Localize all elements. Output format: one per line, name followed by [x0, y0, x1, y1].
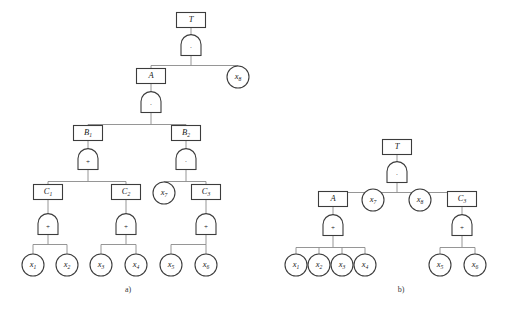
b-gate-C3-gate-symbol: +: [460, 224, 464, 232]
a-evt-x4-basic-event[interactable]: x4: [125, 254, 147, 276]
tree-nodes: ··+·+++TAB1B2C1C2C3x8x7x1x2x3x4x5x6·++TA…: [22, 13, 486, 277]
a-evt-x3-basic-event[interactable]: x3: [90, 254, 112, 276]
a-evt-x2-basic-event[interactable]: x2: [56, 254, 78, 276]
a-box-T-node-box[interactable]: T: [177, 13, 206, 28]
b-gate-T-and-gate[interactable]: ·: [387, 162, 407, 183]
fault-tree-canvas: ··+·+++TAB1B2C1C2C3x8x7x1x2x3x4x5x6·++TA…: [0, 0, 508, 313]
a-box-B2-node-box[interactable]: B2: [172, 126, 201, 141]
a-box-C3-node-box[interactable]: C3: [192, 185, 221, 200]
caption-a: a): [125, 285, 132, 294]
a-gate-C2-gate-symbol: +: [124, 223, 128, 231]
b-evt-x3-basic-event[interactable]: x3: [331, 254, 353, 276]
b-evt-x4-basic-event[interactable]: x4: [354, 254, 376, 276]
a-gate-A-and-gate[interactable]: ·: [141, 92, 161, 113]
a-gate-B2-and-gate[interactable]: ·: [176, 149, 196, 170]
b-evt-x5-basic-event[interactable]: x5: [429, 254, 451, 276]
a-box-B1-node-box[interactable]: B1: [74, 126, 103, 141]
fault-tree-figure: ··+·+++TAB1B2C1C2C3x8x7x1x2x3x4x5x6·++TA…: [0, 0, 508, 313]
b-evt-x1-basic-event[interactable]: x1: [285, 254, 307, 276]
a-evt-x7-basic-event[interactable]: x7: [153, 182, 175, 204]
a-box-C1-node-box[interactable]: C1: [34, 185, 63, 200]
b-gate-C3-or-gate[interactable]: +: [452, 215, 472, 236]
a-evt-x5-basic-event[interactable]: x5: [160, 254, 182, 276]
a-gate-B2-gate-symbol: ·: [185, 158, 187, 166]
a-gate-C3-gate-symbol: +: [204, 223, 208, 231]
a-evt-x1-basic-event[interactable]: x1: [22, 254, 44, 276]
a-gate-T-gate-symbol: ·: [190, 44, 192, 52]
b-box-C3-node-box[interactable]: C3: [448, 192, 477, 207]
b-evt-x8-basic-event[interactable]: x8: [409, 189, 431, 211]
b-evt-x7-basic-event[interactable]: x7: [362, 189, 384, 211]
b-gate-T-gate-symbol: ·: [396, 171, 398, 179]
b-evt-x6-basic-event[interactable]: x6: [464, 254, 486, 276]
a-gate-C1-gate-symbol: +: [46, 223, 50, 231]
a-evt-x6-basic-event[interactable]: x6: [195, 254, 217, 276]
a-gate-T-and-gate[interactable]: ·: [181, 35, 201, 56]
a-evt-x8-basic-event[interactable]: x8: [227, 66, 249, 88]
a-box-A-box-label: A: [147, 70, 154, 80]
a-gate-C1-or-gate[interactable]: +: [38, 214, 58, 235]
b-box-A-node-box[interactable]: A: [319, 192, 348, 207]
a-gate-C3-or-gate[interactable]: +: [196, 214, 216, 235]
b-evt-x2-basic-event[interactable]: x2: [308, 254, 330, 276]
caption-b: b): [398, 285, 405, 294]
a-box-A-node-box[interactable]: A: [137, 69, 166, 84]
a-gate-C2-or-gate[interactable]: +: [116, 214, 136, 235]
a-box-C2-node-box[interactable]: C2: [112, 185, 141, 200]
figure-captions: a)b): [125, 285, 405, 294]
a-gate-A-gate-symbol: ·: [150, 101, 152, 109]
a-gate-B1-or-gate[interactable]: +: [78, 149, 98, 170]
b-box-A-box-label: A: [329, 193, 336, 203]
a-gate-B1-gate-symbol: +: [86, 158, 90, 166]
b-gate-A-or-gate[interactable]: +: [323, 215, 343, 236]
b-box-T-node-box[interactable]: T: [383, 140, 412, 155]
b-gate-A-gate-symbol: +: [331, 224, 335, 232]
